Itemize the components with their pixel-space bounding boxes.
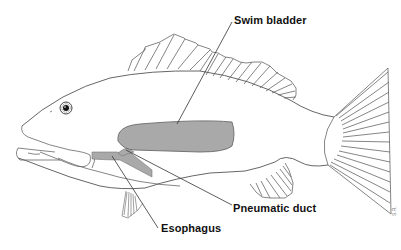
- fish-illustration: [0, 0, 401, 250]
- soft-dorsal-fin: [206, 52, 296, 100]
- caudal-fin: [324, 68, 391, 214]
- pneumatic-duct-label: Pneumatic duct: [233, 202, 316, 214]
- swim-bladder-label: Swim bladder: [234, 14, 307, 26]
- swim-bladder-organ: [118, 121, 234, 152]
- pelvic-fin: [122, 191, 143, 218]
- esophagus-label: Esophagus: [161, 222, 221, 234]
- eye: [50, 102, 72, 114]
- artist-signature: S.R.: [391, 206, 397, 216]
- pneumatic-duct-leader: [126, 150, 232, 205]
- spiny-dorsal-fin: [128, 34, 212, 71]
- fish-anatomy-diagram: Swim bladder Pneumatic duct Esophagus S.…: [0, 0, 401, 250]
